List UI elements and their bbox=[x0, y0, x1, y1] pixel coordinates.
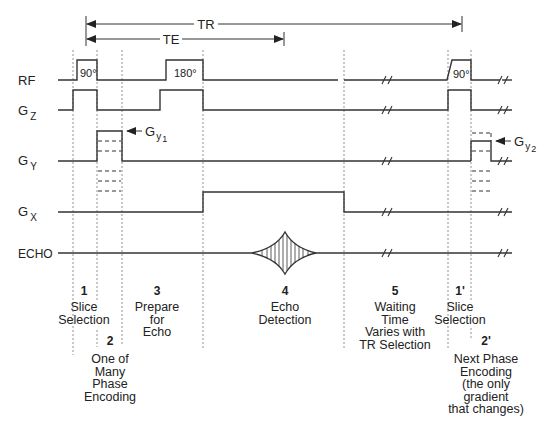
svg-text:1': 1' bbox=[455, 284, 465, 298]
svg-text:3: 3 bbox=[154, 284, 161, 298]
channel-labels: RF GZ GY GX ECHO bbox=[18, 73, 53, 261]
echo-waveform bbox=[58, 232, 512, 274]
gy2-label: Gy2 bbox=[514, 134, 536, 154]
svg-text:TR Selection: TR Selection bbox=[359, 338, 431, 352]
tr-interval: TR bbox=[86, 16, 462, 32]
svg-text:1: 1 bbox=[81, 284, 88, 298]
svg-text:Slice: Slice bbox=[446, 300, 473, 314]
gx-waveform bbox=[58, 192, 512, 212]
svg-text:Selection: Selection bbox=[434, 313, 485, 327]
te-interval: TE bbox=[86, 32, 284, 47]
gz-trace bbox=[58, 90, 512, 110]
segment-4: 4 Echo Detection bbox=[259, 284, 312, 327]
segment-1-prime: 1' Slice Selection bbox=[434, 284, 485, 327]
svg-text:4: 4 bbox=[282, 284, 289, 298]
segment-1: 1 Slice Selection bbox=[58, 284, 109, 327]
segment-5: 5 Waiting Time Varies with TR Selection bbox=[359, 284, 431, 352]
svg-text:Detection: Detection bbox=[259, 313, 312, 327]
te-label: TE bbox=[163, 32, 180, 47]
svg-text:Echo: Echo bbox=[143, 325, 172, 339]
gy-trace bbox=[58, 131, 471, 161]
svg-text:Prepare: Prepare bbox=[135, 300, 180, 314]
svg-text:that changes): that changes) bbox=[448, 402, 524, 416]
svg-text:2': 2' bbox=[481, 334, 491, 348]
rf-trace bbox=[58, 60, 338, 80]
svg-text:5: 5 bbox=[392, 284, 399, 298]
rf-trace-2 bbox=[344, 60, 500, 80]
svg-text:Varies with: Varies with bbox=[365, 325, 425, 339]
tr-label: TR bbox=[197, 17, 214, 32]
gz-waveform bbox=[58, 90, 512, 110]
svg-text:Waiting: Waiting bbox=[374, 300, 415, 314]
gx-trace bbox=[58, 192, 512, 212]
svg-text:Slice: Slice bbox=[70, 300, 97, 314]
gy1-label: Gy1 bbox=[145, 124, 167, 144]
svg-text:Phase: Phase bbox=[92, 377, 127, 391]
segment-3: 3 Prepare for Echo bbox=[135, 284, 180, 339]
echo-hatching bbox=[262, 235, 308, 271]
pulse-sequence-diagram: TR TE RF GZ GY GX ECHO 90° 180° 90° bbox=[0, 0, 552, 431]
segment-2: 2 One of Many Phase Encoding bbox=[84, 334, 136, 404]
break-marks bbox=[382, 76, 508, 257]
gy-trace-2 bbox=[471, 141, 512, 161]
svg-text:Next Phase: Next Phase bbox=[454, 352, 519, 366]
channel-label-gx: GX bbox=[18, 204, 37, 223]
channel-label-gz: GZ bbox=[18, 103, 36, 122]
segment-2-prime: 2' Next Phase Encoding (the only gradien… bbox=[448, 334, 524, 416]
rf-90-label: 90° bbox=[80, 67, 97, 79]
channel-label-echo: ECHO bbox=[18, 247, 53, 261]
rf-180-label: 180° bbox=[174, 67, 197, 79]
svg-text:2: 2 bbox=[107, 334, 114, 348]
rf-waveform: 90° 180° 90° bbox=[58, 60, 512, 80]
gy-waveform: Gy1 Gy2 bbox=[58, 124, 536, 191]
svg-text:Encoding: Encoding bbox=[84, 390, 136, 404]
svg-text:One of: One of bbox=[91, 352, 129, 366]
svg-text:Echo: Echo bbox=[271, 300, 300, 314]
channel-label-rf: RF bbox=[18, 73, 35, 88]
svg-text:(the only: (the only bbox=[462, 377, 511, 391]
rf-90-next-label: 90° bbox=[453, 68, 470, 80]
svg-text:Selection: Selection bbox=[58, 313, 109, 327]
channel-label-gy: GY bbox=[18, 153, 37, 172]
